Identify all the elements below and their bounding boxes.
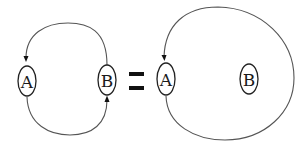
- node-a-label: A: [20, 72, 34, 92]
- node-b-label: B: [243, 70, 256, 90]
- left-edge-top-arc: [26, 23, 107, 65]
- equals-bar-top: [129, 72, 144, 76]
- node-b-label: B: [101, 71, 114, 91]
- equals-sign: [129, 72, 144, 90]
- left-arrowhead-into-a: [24, 56, 29, 62]
- graph-equivalence-diagram: A B A B: [0, 0, 306, 146]
- right-node-a: A: [157, 63, 175, 95]
- node-a-label: A: [159, 70, 173, 90]
- left-node-a: A: [18, 66, 36, 96]
- right-edge-large-loop: [164, 7, 294, 140]
- left-arrowhead-into-b: [105, 96, 110, 103]
- right-node-b: B: [240, 64, 258, 94]
- left-node-b: B: [98, 65, 116, 95]
- right-arrowhead-into-a: [162, 55, 167, 61]
- left-graph: A B: [18, 23, 116, 135]
- right-graph: A B: [157, 7, 294, 140]
- equals-bar-bottom: [129, 86, 144, 90]
- left-edge-bottom-arc: [27, 97, 107, 135]
